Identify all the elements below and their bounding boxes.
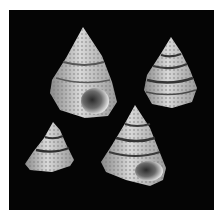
shell-bottom-left <box>25 122 74 172</box>
shell-top-left <box>50 27 117 118</box>
shell-bottom-right <box>101 105 166 186</box>
shells-photo <box>0 0 223 215</box>
shell-top-right <box>144 37 197 108</box>
